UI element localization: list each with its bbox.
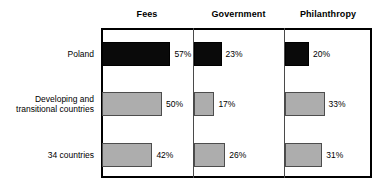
bar-fees-developing [102, 92, 162, 116]
bar-value-government-developing: 17% [218, 92, 235, 116]
bar-government-developing [194, 92, 214, 116]
bar-government-poland [194, 42, 222, 66]
bar-value-government-poland: 23% [226, 42, 243, 66]
column-header-fees: Fees [101, 9, 193, 20]
bar-government-34-countries [194, 143, 225, 167]
bar-value-fees-poland: 57% [174, 42, 191, 66]
bar-philanthropy-developing [285, 92, 325, 116]
column-header-philanthropy: Philanthropy [284, 9, 372, 20]
column-header-government: Government [193, 9, 284, 20]
row-label-poland: Poland [0, 49, 94, 59]
row-label-34-countries: 34 countries [0, 150, 94, 160]
row-label-developing-and-transitional-countries: Developing and transitional countries [0, 94, 94, 114]
bar-philanthropy-poland [285, 42, 309, 66]
bar-value-philanthropy-34-countries: 31% [326, 143, 343, 167]
bar-value-fees-developing: 50% [166, 92, 183, 116]
bar-fees-poland [102, 42, 170, 66]
grouped-bar-chart: Fees Government Philanthropy Poland Deve… [0, 0, 386, 194]
bar-philanthropy-34-countries [285, 143, 322, 167]
bar-fees-34-countries [102, 143, 152, 167]
bar-value-philanthropy-poland: 20% [313, 42, 330, 66]
bar-value-government-34-countries: 26% [229, 143, 246, 167]
bar-value-fees-34-countries: 42% [156, 143, 173, 167]
bar-value-philanthropy-developing: 33% [329, 92, 346, 116]
